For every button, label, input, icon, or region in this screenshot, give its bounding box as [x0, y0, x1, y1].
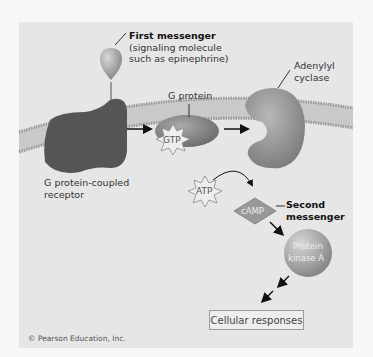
adenylyl-label-1: Adenylyl [294, 60, 335, 71]
first-messenger-label: First messenger [129, 30, 216, 41]
copyright: © Pearson Education, Inc. [28, 334, 126, 343]
second-messenger-label-1: Second [286, 199, 325, 210]
adenylyl-cyclase [245, 88, 305, 168]
first-messenger-desc-1: (signaling molecule [129, 42, 222, 53]
second-messenger-label-2: messenger [286, 211, 345, 222]
camp-label: cAMP [241, 206, 264, 217]
adenylyl-label-2: cyclase [294, 72, 329, 83]
first-messenger-molecule [100, 48, 122, 80]
atp-label: ATP [196, 186, 212, 197]
gpcr-label-1: G protein-coupled [44, 177, 129, 188]
gpcr-receptor [44, 99, 127, 173]
pka-label-1: Protein [293, 241, 323, 252]
cellular-responses-box: Cellular responses [209, 310, 304, 330]
pka-label-2: kinase A [288, 253, 324, 264]
gpcr-label-2: receptor [44, 189, 84, 200]
first-messenger-desc-2: such as epinephrine) [129, 53, 229, 64]
gtp-label: GTP [163, 135, 181, 146]
g-protein-label: G protein [168, 90, 212, 101]
